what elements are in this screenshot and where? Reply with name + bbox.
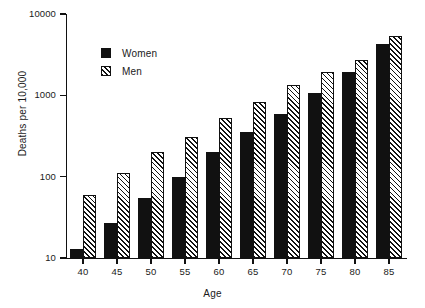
x-axis-tick [286,259,287,264]
legend-label-women: Women [122,48,157,59]
bar-women-age-40 [70,249,83,258]
bar-men-age-65 [253,102,266,259]
legend-entry-men: Men [101,62,157,80]
legend-swatch-women-icon [101,48,111,58]
x-axis-title: Age [0,288,425,299]
bar-men-age-70 [287,85,300,258]
legend-swatch-men-icon [101,66,111,76]
bar-men-age-75 [321,72,334,258]
bar-women-age-70 [274,114,287,258]
bar-men-age-55 [185,137,198,258]
bar-women-age-50 [138,198,151,258]
y-axis-tick-label: 1000 [34,90,56,100]
y-axis-tick-label: 10 [45,253,56,263]
bar-men-age-40 [83,195,96,258]
bar-women-age-75 [308,93,321,258]
bar-women-age-55 [172,177,185,258]
y-axis-tick-label: 10000 [29,9,56,19]
x-axis-tick [320,259,321,264]
x-axis-tick [218,259,219,264]
legend-entry-women: Women [101,44,157,62]
bar-men-age-80 [355,60,368,258]
bar-men-age-85 [389,36,402,258]
bar-women-age-65 [240,132,253,258]
legend-label-men: Men [122,66,142,77]
bar-women-age-85 [376,44,389,258]
x-axis-tick [184,259,185,264]
y-axis-title: Deaths per 10,000 [17,54,28,174]
x-axis-tick [252,259,253,264]
bar-women-age-80 [342,72,355,258]
x-axis-tick [116,259,117,264]
x-axis-tick [150,259,151,264]
y-axis-tick-label: 100 [40,172,56,182]
bar-women-age-60 [206,152,219,258]
x-axis-tick [82,259,83,264]
bar-men-age-50 [151,152,164,258]
bar-women-age-45 [104,223,117,258]
figure-caption [8,299,308,307]
figure-root: Deaths per 10,000 10100100010000 4045505… [0,0,425,308]
legend: Women Men [101,44,157,80]
x-axis-tick [354,259,355,264]
bar-men-age-45 [117,173,130,258]
x-axis-tick [388,259,389,264]
bar-men-age-60 [219,118,232,258]
x-axis-tick-label: 85 [369,266,409,277]
